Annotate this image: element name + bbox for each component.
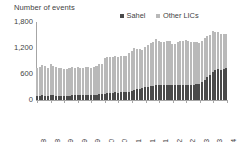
x-axis-tick-mark [78,101,79,103]
bar-series-container [36,22,228,100]
legend-swatch-sahel [120,14,124,18]
y-axis-tick-label: 600 [20,70,33,78]
x-axis-tick-mark [200,101,201,103]
x-axis-tick-mark [186,101,187,103]
x-axis-tick-mark [105,101,106,103]
x-axis-tick-mark [37,101,38,103]
x-axis-tick-label: Jun-19 [81,139,89,142]
x-axis-tick-mark [91,101,92,103]
x-axis-tick-label: Jul-21 [149,139,157,142]
y-axis-tick-label: 1,800 [14,18,33,26]
x-axis-tick-mark [146,101,147,103]
x-axis-tick-label: Apr-20 [108,139,116,142]
x-axis-tick-mark [173,101,174,103]
x-axis-tick-mark [227,101,228,103]
chart-legend: Sahel Other LICs [120,12,199,20]
bar-segment-other-lics [225,34,227,68]
chart-root: Number of events Sahel Other LICs 06001,… [0,0,239,142]
y-axis-tick-labels: 06001,2001,800 [0,0,33,142]
x-axis-tick-label: Dec-21 [162,139,170,142]
legend-item-sahel[interactable]: Sahel [120,12,145,20]
x-axis-tick-label: Feb-21 [135,139,143,142]
plot-area [36,22,228,100]
legend-item-other-lics[interactable]: Other LICs [156,12,198,20]
x-axis-tick-labels: Mar-18Aug-18Jan-19Jun-19Nov-19Apr-20Sep-… [36,101,228,142]
bar-stack [225,34,227,100]
y-axis-tick-label: 1,200 [14,44,33,52]
x-axis-tick-label: Sep-20 [121,139,129,142]
x-axis-tick-label: Nov-19 [94,139,102,142]
x-axis-tick-mark [159,101,160,103]
x-axis-tick-label: Mar-18 [40,139,48,142]
x-axis-tick-label: Mar-23 [203,139,211,142]
x-axis-tick-label: Aug-23 [216,139,224,142]
x-axis-tick-mark [51,101,52,103]
y-axis-tick-label: 0 [29,96,33,104]
x-axis-tick-label: Oct-22 [189,139,197,142]
x-axis-tick-mark [118,101,119,103]
x-axis-tick-label: Aug-18 [54,139,62,142]
x-axis-tick-label: May-22 [176,139,184,142]
x-axis-tick-mark [132,101,133,103]
legend-label-other-lics: Other LICs [163,12,199,20]
bar-column[interactable] [225,22,228,100]
x-axis-tick-mark [213,101,214,103]
legend-swatch-other-lics [156,14,160,18]
legend-label-sahel: Sahel [127,12,146,20]
x-axis-tick-label: Jan-24 [230,139,238,142]
x-axis-tick-label: Jan-19 [67,139,75,142]
bar-segment-sahel [225,68,227,100]
x-axis-tick-mark [64,101,65,103]
